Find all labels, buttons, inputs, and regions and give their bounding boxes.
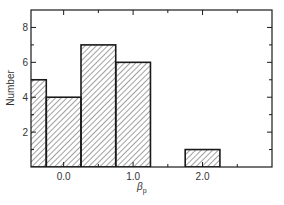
y-axis-label: Number — [5, 70, 16, 106]
y-tick-label: 2 — [22, 127, 28, 138]
histogram-chart: 0.01.02.02468 Number βp — [0, 0, 284, 205]
x-axis-label: βp — [136, 181, 147, 195]
histogram-bar — [116, 62, 151, 167]
x-axis-label-sub: p — [143, 187, 147, 195]
x-tick-label: 2.0 — [196, 171, 210, 182]
y-tick-label: 8 — [22, 22, 28, 33]
y-tick-label: 4 — [22, 92, 28, 103]
histogram-bar — [12, 80, 47, 167]
y-tick-label: 6 — [22, 57, 28, 68]
histogram-bars — [12, 45, 220, 167]
histogram-bar — [46, 97, 81, 167]
histogram-bar — [81, 45, 116, 167]
x-tick-label: 0.0 — [57, 171, 71, 182]
